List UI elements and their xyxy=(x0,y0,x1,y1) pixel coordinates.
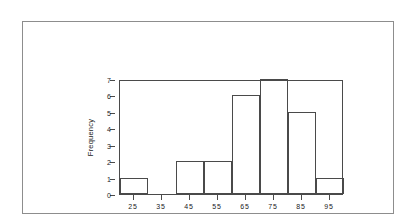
bars-group xyxy=(120,81,342,194)
y-axis-tick-label: 6 xyxy=(107,93,111,100)
histogram-bar xyxy=(316,178,344,194)
x-axis-tick xyxy=(161,195,162,200)
x-axis-tick-label: 75 xyxy=(268,203,277,210)
histogram-bar xyxy=(176,161,204,194)
y-axis-title: Frequency xyxy=(85,80,97,195)
x-axis-tick xyxy=(189,195,190,200)
x-axis-tick-label: 35 xyxy=(156,203,165,210)
x-axis-tick-label: 25 xyxy=(128,203,137,210)
x-axis-tick xyxy=(273,195,274,200)
y-axis-tick-label: 0 xyxy=(107,192,111,199)
x-axis-tick-label: 45 xyxy=(184,203,193,210)
x-axis-tick xyxy=(329,195,330,200)
histogram-bar xyxy=(120,178,148,194)
y-axis-tick-label: 7 xyxy=(107,77,111,84)
x-axis-tick-label: 65 xyxy=(240,203,249,210)
y-axis-tick-label: 2 xyxy=(107,159,111,166)
y-axis-tick-label: 3 xyxy=(107,142,111,149)
y-axis-tick-label: 1 xyxy=(107,175,111,182)
histogram-figure: Frequency 01234567 2535455565758595 xyxy=(0,0,412,224)
x-axis: 2535455565758595 xyxy=(119,195,343,196)
x-axis-tick xyxy=(133,195,134,200)
histogram-bar xyxy=(260,79,288,194)
histogram-bar xyxy=(288,112,316,194)
figure-outer-frame: Frequency 01234567 2535455565758595 xyxy=(22,21,394,214)
x-axis-tick xyxy=(217,195,218,200)
x-axis-tick-label: 85 xyxy=(296,203,305,210)
y-axis-tick-label: 4 xyxy=(107,126,111,133)
y-axis-tick-label: 5 xyxy=(107,109,111,116)
histogram-bar xyxy=(204,161,232,194)
x-axis-tick-label: 95 xyxy=(324,203,333,210)
histogram-bar xyxy=(232,95,260,194)
y-axis-title-label: Frequency xyxy=(87,119,96,156)
x-axis-tick-label: 55 xyxy=(212,203,221,210)
plot-area xyxy=(119,80,343,195)
x-axis-tick xyxy=(301,195,302,200)
x-axis-tick xyxy=(245,195,246,200)
